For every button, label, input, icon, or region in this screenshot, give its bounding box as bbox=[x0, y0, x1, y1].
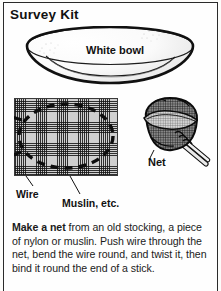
muslin-label: Muslin, etc. bbox=[62, 197, 119, 209]
net-drawing bbox=[134, 94, 216, 176]
survey-kit-page: Survey Kit bbox=[0, 0, 221, 291]
white-bowl-illustration: White bowl bbox=[24, 26, 196, 88]
finished-net-illustration: Net bbox=[134, 94, 216, 176]
net-label: Net bbox=[148, 156, 166, 168]
page-title: Survey Kit bbox=[10, 7, 79, 22]
muslin-with-wire-illustration bbox=[14, 98, 118, 176]
callout-labels: Wire Muslin, etc. bbox=[0, 170, 221, 210]
white-bowl-label: White bowl bbox=[86, 44, 144, 56]
wire-label: Wire bbox=[16, 188, 39, 200]
instructions-lead: Make a net bbox=[12, 221, 66, 233]
bowl-drawing bbox=[24, 26, 196, 88]
instructions-paragraph: Make a net from an old stocking, a piece… bbox=[12, 221, 208, 275]
wire-dashed-circle bbox=[14, 98, 118, 176]
